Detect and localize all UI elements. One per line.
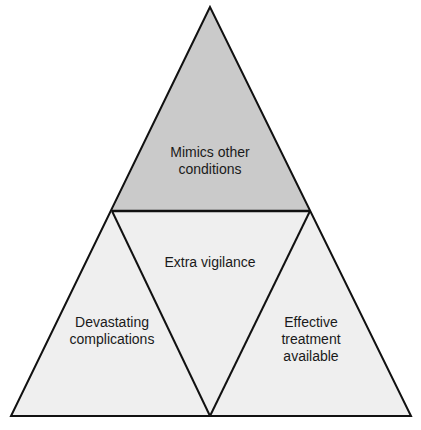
triangle-diagram bbox=[0, 0, 421, 430]
label-devastating-complications: Devastating complications bbox=[70, 314, 155, 348]
top-triangle bbox=[112, 7, 310, 211]
label-extra-vigilance: Extra vigilance bbox=[164, 254, 255, 271]
label-effective-treatment-available: Effective treatment available bbox=[281, 314, 340, 365]
label-mimics-other-conditions: Mimics other conditions bbox=[170, 144, 249, 178]
